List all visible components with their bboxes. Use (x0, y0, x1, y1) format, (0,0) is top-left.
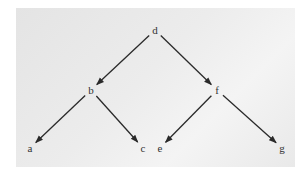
edge-d-f (161, 36, 212, 85)
tree-diagram: dbfaceg (0, 0, 307, 174)
edge-d-b (97, 35, 149, 84)
node-d: d (152, 24, 158, 36)
edge-f-g (223, 95, 276, 142)
node-g: g (279, 142, 285, 154)
edge-f-e (166, 96, 212, 143)
node-c: c (141, 142, 146, 154)
node-b: b (88, 84, 94, 96)
edge-b-c (96, 96, 137, 142)
node-e: e (158, 142, 163, 154)
node-a: a (28, 142, 33, 154)
edge-b-a (36, 96, 85, 143)
node-f: f (215, 84, 219, 96)
